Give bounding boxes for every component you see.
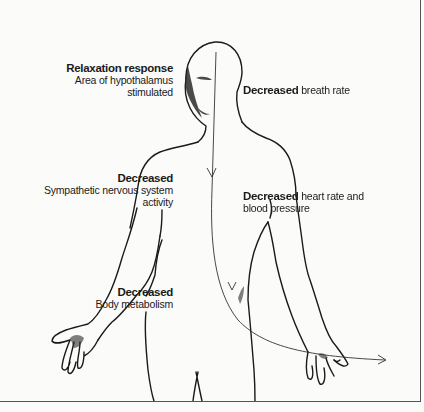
frame-right-edge: [420, 0, 421, 402]
right-arm-outer: [296, 196, 348, 366]
label-line: activity: [143, 196, 174, 208]
label-relaxation-response: Relaxation response Area of hypothalamus…: [60, 62, 173, 98]
label-text: heart rate and: [301, 190, 364, 202]
left-arm-outer: [52, 208, 137, 343]
left-leg: [193, 372, 202, 401]
label-heading: Decreased: [118, 286, 173, 298]
label-heart-rate: Decreased heart rate and blood pressure: [243, 190, 364, 214]
right-torso: [248, 222, 268, 401]
label-sympathetic: Decreased Sympathetic nervous system act…: [30, 172, 173, 208]
frame-bottom-edge: [0, 401, 421, 402]
label-heading: Relaxation response: [66, 62, 173, 74]
label-line: stimulated: [127, 86, 173, 98]
label-heading: Decreased: [118, 172, 173, 184]
label-line: blood pressure: [243, 202, 310, 214]
right-neck: [242, 122, 296, 196]
label-line: Area of hypothalamus: [75, 74, 173, 86]
left-hand: [62, 340, 98, 374]
label-line: Body metabolism: [95, 298, 173, 310]
label-breath-rate: Decreased breath rate: [243, 84, 350, 96]
label-heading: Decreased: [243, 190, 298, 202]
label-body-metabolism: Decreased Body metabolism: [80, 286, 173, 310]
label-text: breath rate: [301, 84, 350, 96]
label-heading: Decreased: [243, 84, 298, 96]
label-line: Sympathetic nervous system: [44, 184, 173, 196]
